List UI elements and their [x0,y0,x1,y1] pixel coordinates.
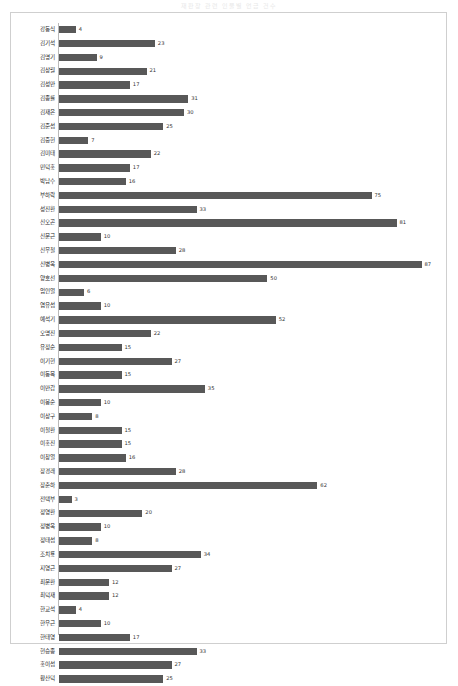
bar-track: 10 [59,299,448,313]
bar-track: 62 [59,479,448,493]
bar-category-label: 양호선 [0,272,55,286]
bar [59,385,205,392]
bar [59,620,101,627]
bar-category-label: 한태영 [0,631,55,645]
bar [59,523,101,530]
bar-value-label: 31 [188,92,198,106]
bar-category-label: 최문환 [0,576,55,590]
bar-track: 23 [59,37,448,51]
bar [59,634,130,641]
bar-category-label: 김준섭 [0,120,55,134]
bar [59,468,176,475]
bar-value-label: 50 [267,272,277,286]
bar-value-label: 16 [126,175,136,189]
bar [59,413,92,420]
bar-row: 정영환20 [11,506,448,520]
bar-track: 15 [59,437,448,451]
bar-row: 김상월21 [11,64,448,78]
bar-row: 황산덕25 [11,672,448,686]
bar-row: 최문환12 [11,576,448,590]
bar-track: 33 [59,645,448,659]
bar [59,150,151,157]
bar-track: 27 [59,658,448,672]
bar-row: 김기석23 [11,37,448,51]
bar-track: 12 [59,589,448,603]
bar-row: 유정순15 [11,341,448,355]
bar-value-label: 10 [101,617,111,631]
bar [59,440,122,447]
bar-category-label: 홍이섭 [0,658,55,672]
bar-category-label: 한교석 [0,603,55,617]
bar-row: 이봉순10 [11,396,448,410]
bar-row: 이만갑35 [11,382,448,396]
bar-row: 장경래28 [11,465,448,479]
bar-value-label: 8 [92,534,98,548]
bar-track: 16 [59,175,448,189]
bar-track: 10 [59,520,448,534]
bar-row: 김중헌7 [11,134,448,148]
bar-value-label: 17 [130,78,140,92]
bar [59,454,126,461]
bar [59,233,101,240]
bar [59,537,92,544]
bar-value-label: 4 [76,603,82,617]
bar-value-label: 10 [101,396,111,410]
bar-track: 33 [59,203,448,217]
bar-value-label: 15 [122,341,132,355]
bar-value-label: 22 [151,327,161,341]
bar-track: 4 [59,603,448,617]
bar [59,275,267,282]
bar-row: 한우근10 [11,617,448,631]
bar [59,316,276,323]
bar-row: 김미태22 [11,147,448,161]
bar-category-label: 김재은 [0,106,55,120]
bar-track: 22 [59,147,448,161]
bar-track: 34 [59,548,448,562]
bar-value-label: 15 [122,424,132,438]
bar [59,675,163,682]
bar-row: 김성만17 [11,78,448,92]
bar-track: 7 [59,134,448,148]
bar-track: 10 [59,617,448,631]
bar-row: 이철환15 [11,424,448,438]
bar-value-label: 28 [176,244,186,258]
bar-category-label: 오명진 [0,327,55,341]
bar-track: 15 [59,341,448,355]
bar-row: 성진환33 [11,203,448,217]
bar-row: 김재은30 [11,106,448,120]
bar-track: 4 [59,23,448,37]
bar-value-label: 12 [109,589,119,603]
bar-category-label: 최덕재 [0,589,55,603]
bar [59,123,163,130]
bar-track: 87 [59,258,448,272]
bar-value-label: 16 [126,451,136,465]
bar-row: 이창열16 [11,451,448,465]
bar-value-label: 6 [84,285,90,299]
bar-value-label: 10 [101,299,111,313]
bar-rows: 강동식4김기석23김명기9김상월21김성만17김종률31김재은30김준섭25김중… [11,23,448,686]
bar [59,344,122,351]
bar-value-label: 34 [201,548,211,562]
bar-category-label: 부하락 [0,189,55,203]
bar-category-label: 신문근 [0,230,55,244]
bar-category-label: 박남수 [0,175,55,189]
bar [59,95,188,102]
bar-track: 35 [59,382,448,396]
bar-row: 이상구8 [11,410,448,424]
bar [59,302,101,309]
bar-track: 10 [59,230,448,244]
bar [59,26,76,33]
bar-row: 염유섭10 [11,299,448,313]
bar-track: 50 [59,272,448,286]
bar [59,565,172,572]
bar-category-label: 정병욱 [0,520,55,534]
bar-category-label: 신무철 [0,244,55,258]
bar [59,427,122,434]
bar-row: 오명진22 [11,327,448,341]
bar-value-label: 62 [317,479,327,493]
bar [59,219,397,226]
bar-row: 정태섭8 [11,534,448,548]
bar [59,399,101,406]
bar-track: 81 [59,216,448,230]
bar-value-label: 8 [92,410,98,424]
